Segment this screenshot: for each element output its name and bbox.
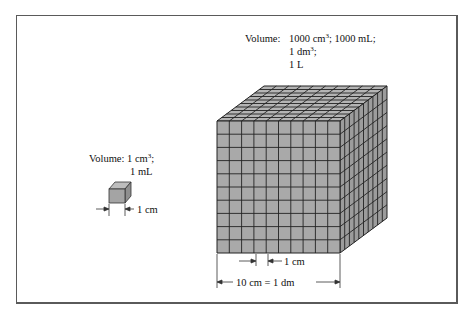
volume-cm3: 1 cm [127,153,148,164]
volume-dm3: 1 dm [289,46,310,57]
large-cube-volume-line1: 1000 cm3; 1000 mL; [289,33,376,44]
small-cube-volume-line1: Volume: 1 cm3; [89,153,154,164]
separator: ; [314,46,317,57]
volume-cm3: 1000 cm [289,33,325,44]
large-cube [217,86,387,253]
edge-dimension-label: 10 cm = 1 dm [236,277,294,288]
volume-caption: Volume: [245,33,280,44]
large-cube-unit-dimension [239,254,282,266]
volume-ml: ; 1000 mL; [329,33,376,44]
cube-diagram [0,0,472,314]
volume-caption: Volume: [89,153,124,164]
small-cube [109,182,131,203]
large-cube-volume-label: Volume: [245,33,280,44]
small-cube-dimension-label: 1 cm [137,204,158,215]
separator: ; [151,153,154,164]
large-cube-volume-line2: 1 dm3; [289,46,317,57]
small-cube-dimension [96,204,134,216]
small-cube-volume-line2: 1 mL [130,166,152,177]
unit-dimension-label: 1 cm [284,256,305,267]
large-cube-volume-line3: 1 L [289,59,303,70]
